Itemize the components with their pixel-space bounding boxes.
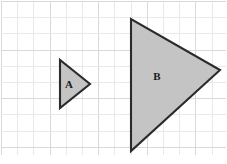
triangle-b-label: B — [153, 70, 161, 82]
triangle-a-label: A — [65, 78, 73, 90]
figure-canvas: AB — [0, 0, 227, 164]
geometry-figure: AB — [0, 0, 227, 164]
